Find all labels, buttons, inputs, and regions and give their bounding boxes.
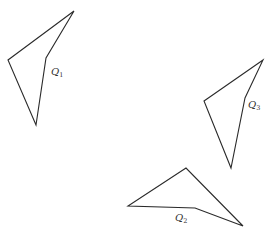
quadrilateral-q1: [8, 11, 74, 125]
shape-q3: Q3: [204, 60, 263, 168]
shape-q2: Q2: [128, 168, 243, 226]
diagram-svg: Q1 Q2 Q3: [0, 0, 278, 230]
label-q3: Q3: [248, 99, 260, 112]
label-q2: Q2: [175, 212, 187, 225]
quadrilateral-q3: [204, 60, 263, 168]
label-q1: Q1: [51, 66, 63, 79]
shape-q1: Q1: [8, 11, 74, 125]
diagram-canvas: Q1 Q2 Q3: [0, 0, 278, 230]
